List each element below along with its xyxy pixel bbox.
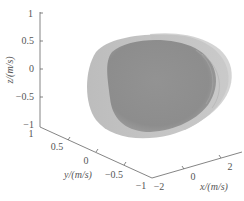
- x-tick: [219, 155, 221, 158]
- y-tick: [96, 149, 98, 152]
- 3d-surface-plot: 1 0.5 0 −0.5 −1 z/(m/s) 1 0.5 0 −0.5 −1 …: [0, 0, 244, 201]
- surface-group: [87, 33, 232, 138]
- z-tick-label: 0.5: [22, 35, 35, 46]
- x-axis-label: x/(m/s): [199, 181, 228, 193]
- z-tick-label: 0: [29, 63, 34, 74]
- z-tick-label: −0.5: [16, 91, 34, 102]
- y-tick-label: 1: [29, 128, 34, 139]
- x-tick-label: −2: [154, 181, 165, 192]
- x-tick: [182, 166, 184, 169]
- y-tick: [68, 137, 70, 140]
- y-tick-label: −1: [136, 180, 147, 191]
- z-tick-label: 1: [28, 8, 33, 19]
- y-axis-label: y/(m/s): [63, 169, 92, 181]
- y-tick: [124, 162, 126, 165]
- z-axis-label: z/(m/s): [4, 56, 16, 85]
- y-tick-label: −0.5: [105, 169, 123, 180]
- x-tick-label: 0: [191, 171, 196, 182]
- y-tick-label: 0: [84, 155, 89, 166]
- x-tick-label: 2: [228, 161, 233, 172]
- y-tick-label: 0.5: [51, 141, 64, 152]
